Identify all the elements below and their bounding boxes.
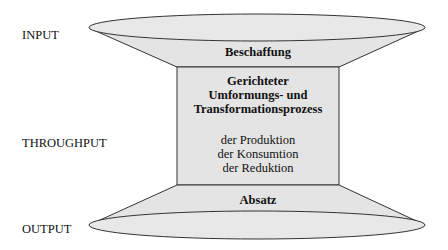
process-title-line-3: Transformationsprozess: [177, 102, 339, 116]
top-ellipse-shape: [89, 14, 425, 41]
absatz-label: Absatz: [177, 193, 339, 207]
beschaffung-label: Beschaffung: [177, 45, 339, 59]
input-label: INPUT: [22, 28, 59, 42]
process-title-line-1: Gerichteter: [177, 74, 339, 88]
bottom-ellipse-shape: [89, 211, 425, 239]
output-label: OUTPUT: [22, 222, 71, 236]
process-item-reduktion: der Reduktion: [177, 161, 339, 175]
process-title-line-2: Umformungs- und: [177, 88, 339, 102]
process-item-produktion: der Produktion: [177, 133, 339, 147]
hourglass-diagram: [0, 0, 448, 250]
throughput-label: THROUGHPUT: [22, 136, 107, 150]
process-item-konsumtion: der Konsumtion: [177, 147, 339, 161]
